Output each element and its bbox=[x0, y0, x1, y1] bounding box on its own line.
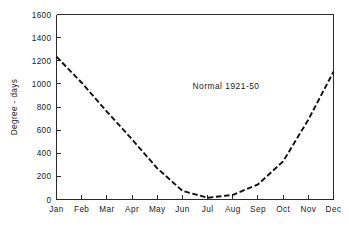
x-tick-label: Aug bbox=[225, 205, 241, 214]
degree-days-line-chart: 02004006008001000120014001600 JanFebMarA… bbox=[0, 0, 349, 231]
chart-background bbox=[0, 0, 349, 231]
x-tick-label: Mar bbox=[99, 205, 114, 214]
y-tick-label: 1600 bbox=[32, 11, 52, 20]
x-tick-label: Sep bbox=[250, 205, 266, 214]
y-tick-label: 400 bbox=[37, 149, 52, 158]
x-tick-label: May bbox=[149, 205, 166, 214]
x-tick-label: Nov bbox=[300, 205, 316, 214]
y-axis-title: Degree - days bbox=[10, 79, 19, 136]
y-tick-label: 200 bbox=[37, 172, 52, 181]
x-tick-label: Jun bbox=[175, 205, 189, 214]
y-tick-label: 0 bbox=[47, 196, 52, 205]
x-tick-label: Oct bbox=[276, 205, 290, 214]
x-tick-label: Feb bbox=[74, 205, 89, 214]
chart-container: 02004006008001000120014001600 JanFebMarA… bbox=[0, 0, 349, 231]
y-tick-label: 800 bbox=[37, 103, 52, 112]
y-tick-label: 1200 bbox=[32, 57, 52, 66]
x-tick-label: Apr bbox=[125, 205, 139, 214]
y-tick-label: 1000 bbox=[32, 80, 52, 89]
x-tick-label: Jan bbox=[49, 205, 63, 214]
x-tick-label: Jul bbox=[202, 205, 214, 214]
y-tick-label: 600 bbox=[37, 126, 52, 135]
chart-annotation: Normal 1921-50 bbox=[192, 81, 259, 91]
x-tick-label: Dec bbox=[326, 205, 342, 214]
y-tick-label: 1400 bbox=[32, 34, 52, 43]
